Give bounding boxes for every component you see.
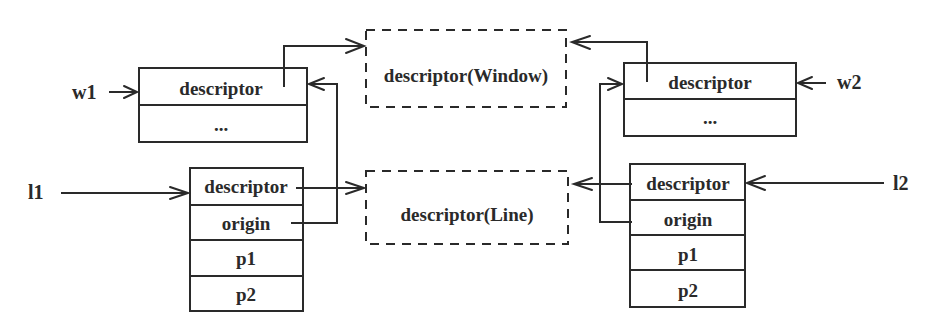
arrow-w2-to-object bbox=[798, 77, 826, 89]
l2-field-descriptor: descriptor bbox=[646, 173, 730, 194]
w1-field-descriptor: descriptor bbox=[179, 78, 263, 99]
arrow-l1-to-object bbox=[61, 187, 188, 199]
l1-object: descriptor origin p1 p2 bbox=[190, 168, 303, 311]
w2-field-descriptor: descriptor bbox=[668, 72, 752, 93]
w1-field-ellipsis: ... bbox=[214, 114, 228, 135]
pointer-label-w2: w2 bbox=[837, 71, 861, 93]
l2-field-p2: p2 bbox=[678, 280, 698, 301]
l1-field-p1: p1 bbox=[236, 248, 256, 269]
window-descriptor-box: descriptor(Window) bbox=[366, 30, 566, 107]
line-descriptor-label: descriptor(Line) bbox=[401, 204, 534, 226]
l1-field-descriptor: descriptor bbox=[204, 176, 288, 197]
arrow-l2-descriptor-to-line bbox=[574, 178, 632, 190]
pointer-label-l1: l1 bbox=[28, 181, 44, 203]
window-descriptor-label: descriptor(Window) bbox=[384, 65, 548, 87]
line-descriptor-box: descriptor(Line) bbox=[366, 171, 568, 244]
w2-field-ellipsis: ... bbox=[703, 107, 717, 128]
arrow-w1-to-object bbox=[109, 86, 137, 98]
l2-field-origin: origin bbox=[664, 209, 713, 230]
arrow-l1-descriptor-to-line bbox=[296, 182, 364, 194]
diagram-canvas: descriptor(Window) descriptor(Line) desc… bbox=[0, 0, 940, 335]
w2-object: descriptor ... bbox=[624, 63, 796, 136]
l2-field-p1: p1 bbox=[678, 244, 698, 265]
pointer-label-l2: l2 bbox=[893, 172, 909, 194]
arrow-l2-to-object bbox=[747, 176, 884, 190]
l2-object: descriptor origin p1 p2 bbox=[630, 164, 745, 307]
l1-field-origin: origin bbox=[222, 213, 271, 234]
w1-object: descriptor ... bbox=[139, 68, 307, 142]
pointer-label-w1: w1 bbox=[72, 81, 96, 103]
l1-field-p2: p2 bbox=[236, 284, 256, 305]
